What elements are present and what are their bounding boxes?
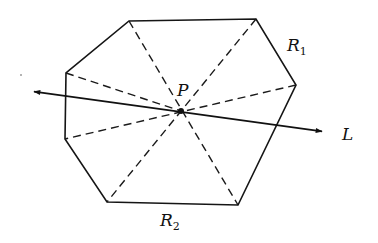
stray-mark [20, 74, 22, 76]
region-R2-label: R2 [159, 210, 180, 233]
diagram-canvas: P L R1 R2 [0, 0, 378, 243]
line-L-label: L [341, 124, 353, 144]
region-R1-label: R1 [286, 35, 307, 58]
point-P-label: P [176, 80, 189, 100]
point-P-dot [178, 108, 184, 114]
